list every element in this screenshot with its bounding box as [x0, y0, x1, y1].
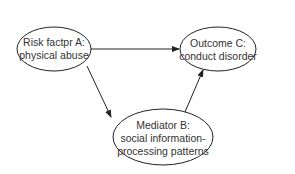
arrow-a-to-b — [87, 66, 111, 117]
arrow-b-to-c — [185, 70, 203, 112]
outcome-title: Outcome C: — [179, 37, 257, 50]
mediator-desc-2: processing patterns — [117, 145, 209, 158]
outcome-desc: conduct disorder — [179, 50, 257, 63]
mediator-title: Mediator B: — [117, 119, 209, 132]
risk-factor-title: Risk factpr A: — [19, 36, 88, 49]
risk-factor-desc: physical abuse — [19, 49, 88, 62]
mediator-label: Mediator B: social information- processi… — [117, 119, 209, 158]
risk-factor-label: Risk factpr A: physical abuse — [19, 36, 88, 62]
mediator-desc-1: social information- — [117, 132, 209, 145]
outcome-label: Outcome C: conduct disorder — [179, 37, 257, 63]
